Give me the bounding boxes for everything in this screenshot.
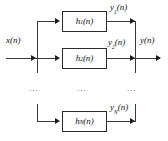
- summing-bus-upper: [135, 21, 136, 73]
- filter-block-n: hN(n): [62, 111, 107, 132]
- filter-block-1: h1(n): [62, 11, 107, 32]
- filter-block-2-suffix: (n): [83, 54, 94, 63]
- filter-block-n-subscript: N: [80, 120, 84, 126]
- input-signal-label: x(n): [6, 36, 21, 45]
- filter-bank-diagram: x(n) h1(n) y1(n) h2(n) y2(n) ... ... ...…: [0, 0, 168, 141]
- filter-block-1-suffix: (n): [83, 17, 94, 26]
- branch-2-output-label: y2(n): [108, 38, 125, 49]
- branch-1-input-wire: [37, 21, 56, 22]
- branch-1-input-arrow-icon: [55, 18, 60, 24]
- branch-n-input-wire: [37, 121, 56, 122]
- branch-n-output-label: yN(n): [110, 103, 128, 114]
- ellipsis-center: ...: [77, 84, 87, 93]
- input-split-bus: [37, 21, 38, 73]
- input-split-bus-lower: [37, 104, 38, 121]
- branch-2-input-arrow-icon: [55, 55, 60, 61]
- summing-bus-lower: [135, 104, 136, 122]
- filter-block-2: h2(n): [62, 48, 107, 69]
- filter-block-n-suffix: (n): [83, 117, 94, 126]
- filter-block-2-subscript: 2: [80, 57, 83, 63]
- branch-2-output-subscript: 2: [112, 44, 115, 50]
- filter-block-1-subscript: 1: [80, 20, 83, 26]
- branch-2-output-suffix: (n): [115, 37, 126, 47]
- branch-n-input-arrow-icon: [55, 118, 60, 124]
- input-arrow-icon: [31, 55, 36, 61]
- branch-1-output-label: y1(n): [110, 3, 127, 14]
- ellipsis-left: ...: [29, 84, 39, 93]
- branch-2-input-wire: [37, 58, 56, 59]
- output-arrow-icon: [156, 55, 161, 61]
- ellipsis-right: ...: [127, 84, 137, 93]
- output-signal-label: y(n): [140, 36, 155, 45]
- branch-1-output-subscript: 1: [114, 9, 117, 15]
- branch-n-output-suffix: (n): [118, 102, 129, 112]
- branch-n-output-subscript: N: [114, 109, 118, 115]
- branch-1-output-suffix: (n): [117, 2, 128, 12]
